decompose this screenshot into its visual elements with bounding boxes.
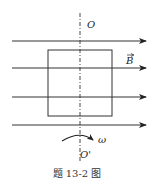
figure-caption: 题 13-2 图 (53, 168, 102, 179)
axis-top-label: O (87, 19, 95, 30)
axis-bottom-label: O' (80, 149, 91, 160)
field-label: B (125, 55, 133, 66)
diagram-canvas: O B ω O' 题 13-2 图 (0, 0, 154, 189)
field-lines (12, 41, 146, 125)
angular-velocity-label: ω (98, 134, 106, 145)
rotation-arrow-icon (62, 135, 93, 141)
